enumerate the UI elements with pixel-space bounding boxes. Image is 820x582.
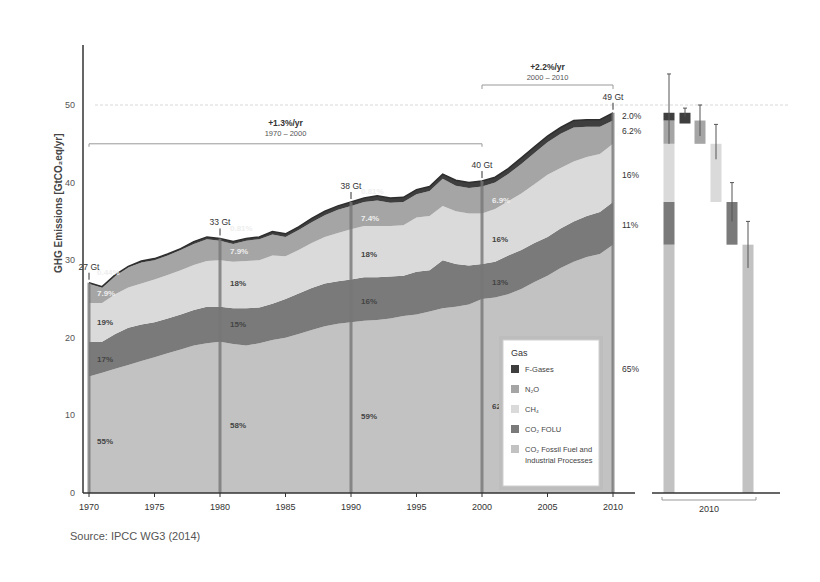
- share-fgases-1970: 0.44%: [97, 268, 120, 277]
- legend-label-4: CO₂ Fossil Fuel and: [525, 445, 592, 454]
- legend-label-4-line2: Industrial Processes: [525, 456, 593, 465]
- y-tick-50: 50: [65, 100, 75, 110]
- legend-label-0: F-Gases: [525, 365, 554, 374]
- share-ch4-1980: 18%: [230, 279, 246, 288]
- y-tick-0: 0: [70, 488, 75, 498]
- share-2010-2: 16%: [622, 170, 639, 180]
- legend-label-3: CO₂ FOLU: [525, 425, 561, 434]
- share-2010-3: 11%: [622, 220, 639, 230]
- bar-total-seg-1: [664, 202, 675, 245]
- share-2010-1: 6.2%: [622, 126, 642, 136]
- legend-swatch-3: [511, 425, 519, 433]
- share-fgases-1980: 0.81%: [230, 224, 253, 233]
- bracket-1970-2000: [89, 144, 482, 147]
- growth-rate-1: +1.3%/yr: [268, 118, 303, 128]
- share-n2o-1990: 7.4%: [361, 214, 379, 223]
- y-tick-20: 20: [65, 333, 75, 343]
- ghg-emissions-chart: 0102030405019701975198019851990199520002…: [0, 0, 820, 582]
- bar-total-seg-0: [664, 245, 675, 493]
- legend: GasF-GasesN₂OCH₄CO₂ FOLUCO₂ Fossil Fuel …: [499, 336, 603, 490]
- x-tick-1970: 1970: [79, 502, 99, 512]
- total-label-2010: 49 Gt: [603, 92, 624, 102]
- share-ch4-1990: 18%: [361, 250, 377, 259]
- share-ch4-2000: 16%: [492, 235, 508, 244]
- share-n2o-2000: 6.9%: [492, 196, 510, 205]
- x-tick-2010: 2010: [603, 502, 623, 512]
- uncertainty-bars-2010: 2010: [652, 74, 780, 514]
- legend-swatch-4: [511, 445, 519, 453]
- share-co2_folu-1970: 17%: [97, 355, 113, 364]
- total-label-1990: 38 Gt: [341, 181, 362, 191]
- share-n2o-1980: 7.9%: [230, 247, 248, 256]
- legend-swatch-1: [511, 385, 519, 393]
- source-caption: Source: IPCC WG3 (2014): [70, 530, 200, 542]
- share-ch4-1970: 19%: [97, 318, 113, 327]
- share-co2_ff-1990: 59%: [361, 412, 377, 421]
- legend-swatch-0: [511, 365, 519, 373]
- legend-swatch-2: [511, 405, 519, 413]
- x-tick-1985: 1985: [275, 502, 295, 512]
- x-tick-2000: 2000: [472, 502, 492, 512]
- share-co2_folu-2000: 13%: [492, 278, 508, 287]
- growth-period-1: 1970 – 2000: [265, 129, 307, 138]
- y-axis-label: GHG Emissions [GtCO₂eq/yr]: [53, 133, 64, 272]
- legend-label-1: N₂O: [525, 385, 539, 394]
- legend-label-2: CH₄: [525, 405, 539, 414]
- y-tick-40: 40: [65, 178, 75, 188]
- share-2010-0: 2.0%: [622, 111, 642, 121]
- bar-total-seg-2: [664, 144, 675, 202]
- share-co2_folu-1980: 15%: [230, 320, 246, 329]
- share-n2o-1970: 7.9%: [97, 289, 115, 298]
- x-tick-1990: 1990: [341, 502, 361, 512]
- x-tick-1995: 1995: [406, 502, 426, 512]
- x-tick-1975: 1975: [144, 502, 164, 512]
- chart-canvas: 0102030405019701975198019851990199520002…: [0, 0, 820, 582]
- share-fgases-1990: 0.81%: [361, 187, 384, 196]
- share-co2_ff-1970: 55%: [97, 437, 113, 446]
- share-co2_ff-1980: 58%: [230, 421, 246, 430]
- growth-period-2: 2000 – 2010: [527, 73, 569, 82]
- x-tick-1980: 1980: [210, 502, 230, 512]
- bar-co2-fossil-fuel-and-industrial-processes: [743, 245, 754, 493]
- growth-rate-2: +2.2%/yr: [530, 62, 565, 72]
- share-co2_folu-1990: 16%: [361, 297, 377, 306]
- total-label-1980: 33 Gt: [210, 217, 231, 227]
- legend-title: Gas: [511, 348, 528, 358]
- y-tick-30: 30: [65, 255, 75, 265]
- x-tick-2005: 2005: [537, 502, 557, 512]
- total-label-2000: 40 Gt: [472, 160, 493, 170]
- share-2010-4: 65%: [622, 364, 639, 374]
- y-tick-10: 10: [65, 410, 75, 420]
- bar-x-label: 2010: [699, 504, 719, 514]
- bracket-2000-2010: [482, 85, 613, 89]
